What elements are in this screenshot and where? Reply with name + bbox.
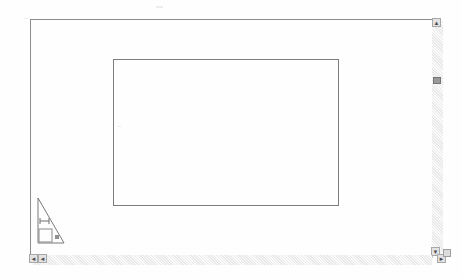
scan-speck bbox=[24, 18, 28, 19]
scroll-left-button[interactable]: ◄ bbox=[29, 254, 38, 263]
right-triangle-title-symbol bbox=[34, 196, 66, 246]
scan-speck bbox=[156, 6, 163, 8]
horizontal-scrollbar-track[interactable] bbox=[33, 255, 432, 265]
resize-corner-grip[interactable] bbox=[443, 249, 451, 257]
vertical-scrollbar-track[interactable] bbox=[432, 20, 443, 256]
scroll-up-button[interactable]: ▲ bbox=[432, 18, 441, 27]
drawing-rectangle[interactable] bbox=[113, 59, 339, 206]
scroll-left-page-button[interactable]: ◄ bbox=[38, 254, 47, 263]
vertical-scrollbar-thumb[interactable] bbox=[433, 77, 441, 84]
drawing-canvas[interactable] bbox=[0, 0, 462, 279]
screenshot-root: ▲ ▼ ◄ ◄ ► bbox=[0, 0, 462, 279]
